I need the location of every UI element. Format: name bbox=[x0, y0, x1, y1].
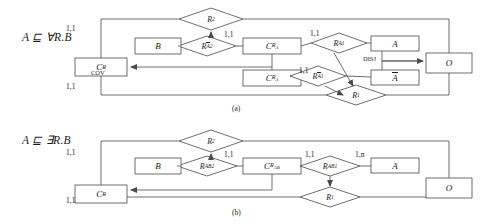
node-rab2-b-label: RAB2 bbox=[192, 160, 222, 172]
node-cr-b-label: CR bbox=[75, 185, 127, 203]
edge-cr-r1-bottom-b bbox=[101, 197, 300, 203]
cardinality-a-2: 1,1 bbox=[224, 30, 233, 39]
cardinality-b-4: 1,n bbox=[355, 150, 364, 159]
node-b-a-label: B bbox=[135, 38, 181, 54]
cardinality-a-4: 1,1 bbox=[299, 66, 308, 75]
node-o-a-label: O bbox=[426, 53, 472, 73]
cardinality-a-0: 1,1 bbox=[66, 24, 75, 33]
node-ra2-a-label: RA2 bbox=[192, 40, 222, 52]
node-cra-a-label: CRA bbox=[243, 38, 301, 54]
node-r1-a-label: R1 bbox=[341, 89, 371, 101]
edge-cra-ra1 bbox=[301, 43, 311, 46]
node-ra1-a-label: RA1 bbox=[324, 37, 354, 49]
node-crabar-a-label: CRĀ bbox=[243, 70, 301, 86]
annotation-disj-a: DISJ bbox=[363, 55, 376, 62]
node-a-a-label: A bbox=[371, 36, 419, 51]
edge-ra1-to-r1 bbox=[334, 53, 353, 86]
node-abar-a-label: A bbox=[371, 70, 419, 85]
cardinality-b-0: 1,1 bbox=[66, 148, 75, 157]
node-r1-b-label: R1 bbox=[315, 191, 345, 203]
er-diagram-svg bbox=[0, 0, 481, 224]
node-rab1-b-label: RAB1 bbox=[315, 160, 345, 172]
edge-rab1-abar bbox=[346, 76, 371, 77]
cardinality-a-3: 1,1 bbox=[310, 29, 319, 38]
cardinality-a-1: 1,1 bbox=[66, 82, 75, 91]
edge-disj-bracket-a bbox=[382, 51, 419, 61]
node-a-b-label: A bbox=[371, 158, 419, 173]
annotation-cov-a: COV bbox=[91, 69, 105, 76]
figure-canvas: A ⊑ ∀R.B A ⊑ ∃R.B (a) (b) bbox=[0, 0, 481, 224]
cardinality-b-3: 1,1 bbox=[305, 150, 314, 159]
cardinality-b-2: 1,1 bbox=[224, 150, 233, 159]
node-b-b-label: B bbox=[135, 158, 181, 174]
node-r2-b-label: R2 bbox=[196, 135, 226, 147]
cardinality-b-1: 1,1 bbox=[66, 196, 75, 205]
edge-cov-arrow-b bbox=[131, 174, 272, 190]
node-o-b-label: O bbox=[426, 178, 472, 198]
node-r2-a-label: R2 bbox=[196, 13, 226, 25]
node-crab-b-label: CRAB bbox=[243, 158, 301, 174]
